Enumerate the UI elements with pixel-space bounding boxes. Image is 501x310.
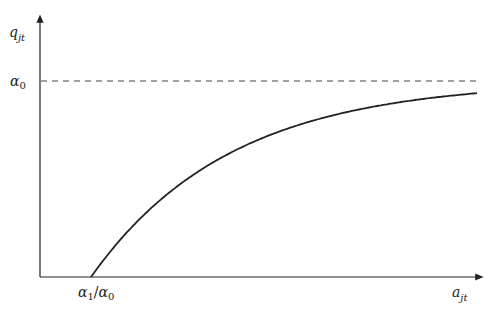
y-axis-label: qjt (9, 24, 26, 43)
response-curve (91, 93, 477, 277)
asymptote-label: α0 (10, 73, 26, 91)
x-axis-label: ajt (452, 284, 468, 303)
chart-canvas: qjt α0 α1/α0 ajt (0, 0, 501, 310)
x-intercept-label: α1/α0 (78, 284, 114, 302)
